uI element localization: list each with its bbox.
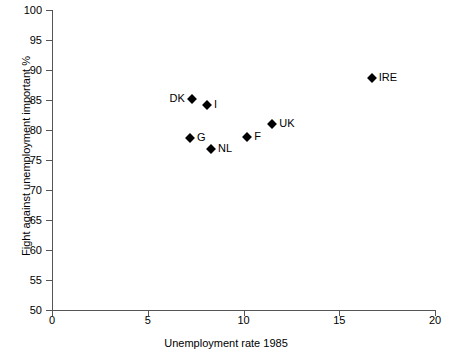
data-point-label-uk: UK — [279, 118, 294, 129]
y-tick-90 — [46, 70, 52, 71]
y-tick-95 — [46, 40, 52, 41]
data-point-label-i: I — [214, 99, 217, 110]
y-tick-label-100: 100 — [0, 5, 42, 16]
x-tick-label-20: 20 — [420, 315, 450, 326]
x-tick-label-10: 10 — [229, 315, 259, 326]
x-tick-label-0: 0 — [37, 315, 67, 326]
x-axis-title: Unemployment rate 1985 — [0, 337, 452, 349]
y-tick-70 — [46, 190, 52, 191]
y-tick-label-55: 55 — [0, 275, 42, 286]
data-point-label-g: G — [197, 132, 206, 143]
scatter-chart: 50556065707580859095100 05101520 DKIGNLF… — [0, 0, 452, 359]
y-tick-label-50: 50 — [0, 305, 42, 316]
x-tick-label-5: 5 — [133, 315, 163, 326]
y-tick-85 — [46, 100, 52, 101]
y-axis-title: Fight against unemployment important % — [20, 46, 32, 266]
y-axis-line — [52, 10, 53, 311]
data-point-ire[interactable] — [367, 73, 377, 83]
x-tick-label-15: 15 — [324, 315, 354, 326]
data-point-f[interactable] — [242, 132, 252, 142]
y-tick-80 — [46, 130, 52, 131]
y-tick-label-95: 95 — [0, 35, 42, 46]
data-point-uk[interactable] — [267, 119, 277, 129]
data-point-nl[interactable] — [206, 144, 216, 154]
data-point-label-ire: IRE — [379, 72, 397, 83]
data-point-label-nl: NL — [218, 143, 232, 154]
data-point-dk[interactable] — [187, 94, 197, 104]
data-point-label-f: F — [254, 131, 261, 142]
data-point-i[interactable] — [202, 100, 212, 110]
y-tick-55 — [46, 280, 52, 281]
y-tick-75 — [46, 160, 52, 161]
y-tick-60 — [46, 250, 52, 251]
y-tick-100 — [46, 10, 52, 11]
data-point-g[interactable] — [185, 133, 195, 143]
data-point-label-dk: DK — [170, 93, 185, 104]
y-tick-65 — [46, 220, 52, 221]
